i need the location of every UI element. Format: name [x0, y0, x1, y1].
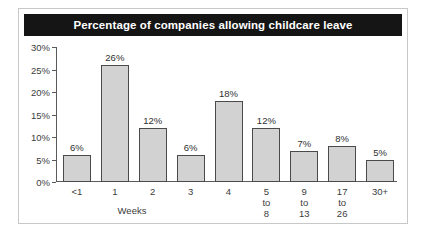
- bar: [290, 151, 318, 183]
- y-axis-tick-mark: [52, 160, 56, 161]
- x-axis-category-label: 5 to 8: [262, 186, 270, 219]
- bar-item: 18%4: [215, 101, 243, 182]
- x-axis-category-label: 17 to 26: [337, 186, 348, 219]
- bar-value-label: 6%: [70, 142, 84, 153]
- bar-item: 26%1: [101, 65, 129, 182]
- x-axis-title: Weeks: [56, 205, 208, 216]
- x-axis-category-label: <1: [72, 186, 83, 197]
- y-axis-tick-mark: [52, 115, 56, 116]
- bar: [139, 128, 167, 182]
- bar-value-label: 5%: [373, 147, 387, 158]
- bar-item: 8%17 to 26: [328, 146, 356, 182]
- plot-area: 0%5%10%15%20%25%30% 6%<126%112%26%318%41…: [56, 47, 398, 183]
- y-axis-tick-label: 20%: [31, 87, 50, 98]
- y-axis-tick-mark: [52, 182, 56, 183]
- bar-value-label: 6%: [184, 142, 198, 153]
- page-title: Percentage of companies allowing childca…: [74, 19, 353, 31]
- bar: [328, 146, 356, 182]
- x-axis-category-label: 30+: [372, 186, 388, 197]
- y-axis-tick-mark: [52, 92, 56, 93]
- y-axis-tick-label: 25%: [31, 64, 50, 75]
- bar: [177, 155, 205, 182]
- bar-value-label: 12%: [143, 115, 162, 126]
- y-axis-tick-label: 0%: [36, 177, 50, 188]
- x-axis-category-label: 4: [226, 186, 231, 197]
- y-axis-tick-mark: [52, 137, 56, 138]
- bar-item: 6%3: [177, 155, 205, 182]
- y-axis-line: [56, 47, 57, 182]
- bar: [366, 160, 394, 183]
- bar-item: 12%2: [139, 128, 167, 182]
- x-axis-category-label: 1: [112, 186, 117, 197]
- y-axis-tick-label: 10%: [31, 132, 50, 143]
- chart-title-bar: Percentage of companies allowing childca…: [24, 14, 402, 36]
- x-axis-category-label: 2: [150, 186, 155, 197]
- chart-figure: Percentage of companies allowing childca…: [18, 8, 408, 224]
- bar-item: 7%9 to 13: [290, 151, 318, 183]
- bar-item: 5%30+: [366, 160, 394, 183]
- y-axis-tick-label: 15%: [31, 109, 50, 120]
- bar-item: 12%5 to 8: [252, 128, 280, 182]
- bar-value-label: 12%: [257, 115, 276, 126]
- x-axis-category-label: 3: [188, 186, 193, 197]
- y-axis-tick-mark: [52, 70, 56, 71]
- bar: [101, 65, 129, 182]
- bar-value-label: 18%: [219, 88, 238, 99]
- y-axis-tick-mark: [52, 47, 56, 48]
- y-axis-tick-label: 5%: [36, 154, 50, 165]
- bar: [252, 128, 280, 182]
- bar-item: 6%<1: [63, 155, 91, 182]
- bar: [63, 155, 91, 182]
- x-axis-category-label: 9 to 13: [299, 186, 310, 219]
- bar: [215, 101, 243, 182]
- bar-value-label: 7%: [297, 138, 311, 149]
- bar-value-label: 26%: [105, 52, 124, 63]
- y-axis-tick-label: 30%: [31, 42, 50, 53]
- bar-value-label: 8%: [335, 133, 349, 144]
